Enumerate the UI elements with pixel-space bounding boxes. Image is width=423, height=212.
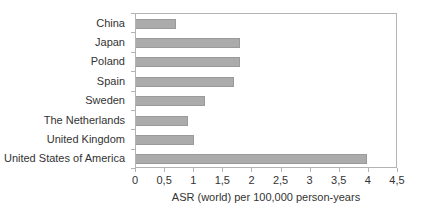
y-tick-mark [131,91,135,92]
y-tick-mark [131,129,135,130]
category-label-united-states-of-america: United States of America [0,149,130,168]
bar-chart-figure: ChinaJapanPolandSpainSwedenThe Netherlan… [0,0,423,212]
x-tick-label: 0 [132,174,138,186]
x-tick-mark [281,168,282,172]
x-tick-mark [222,168,223,172]
bar-china [136,19,176,29]
bar-the-netherlands [136,116,188,126]
y-tick-mark [131,71,135,72]
category-label-japan: Japan [0,32,130,51]
bar-poland [136,57,240,67]
x-tick-label: 4 [365,174,371,186]
x-tick-label: 1,5 [215,174,230,186]
y-tick-mark [131,168,135,169]
x-tick-mark [135,168,136,172]
y-tick-mark [131,52,135,53]
category-label-sweden: Sweden [0,91,130,110]
x-tick-mark [397,168,398,172]
bar-united-kingdom [136,135,194,145]
category-label-china: China [0,13,130,32]
x-tick-label: 3,5 [331,174,346,186]
bar-spain [136,77,234,87]
x-tick-label: 0,5 [156,174,171,186]
x-tick-mark [164,168,165,172]
y-tick-mark [131,13,135,14]
y-tick-mark [131,149,135,150]
x-tick-mark [193,168,194,172]
bar-japan [136,38,240,48]
x-tick-label: 2,5 [273,174,288,186]
x-tick-label: 4,5 [389,174,404,186]
x-tick-label: 1 [190,174,196,186]
plot-area [135,13,397,168]
x-tick-label: 2 [248,174,254,186]
category-label-the-netherlands: The Netherlands [0,110,130,129]
y-tick-mark [131,32,135,33]
y-axis-category-labels: ChinaJapanPolandSpainSwedenThe Netherlan… [0,13,130,168]
bar-united-states-of-america [136,154,367,164]
x-tick-label: 3 [307,174,313,186]
x-tick-mark [310,168,311,172]
x-axis-title: ASR (world) per 100,000 person-years [135,191,397,203]
category-label-poland: Poland [0,52,130,71]
x-tick-mark [339,168,340,172]
bar-sweden [136,96,205,106]
y-tick-mark [131,110,135,111]
x-tick-mark [251,168,252,172]
category-label-united-kingdom: United Kingdom [0,129,130,148]
category-label-spain: Spain [0,71,130,90]
x-tick-mark [368,168,369,172]
